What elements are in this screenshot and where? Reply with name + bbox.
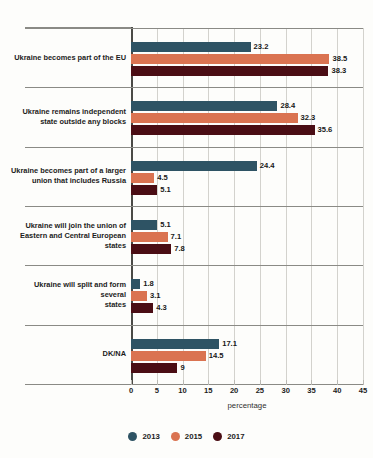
bar-value-label: 7.1 [168, 232, 182, 242]
category-band: 1.83.14.3 [131, 265, 363, 324]
bar-2013[interactable] [131, 101, 277, 111]
category-label: Ukraine will join the union ofEastern an… [8, 206, 126, 265]
x-tick-mark [157, 380, 158, 385]
x-tick-mark [234, 380, 235, 385]
x-tick-mark [363, 380, 364, 385]
x-tick-mark [208, 380, 209, 385]
x-axis-title: percentage [131, 401, 363, 410]
bar-value-label: 14.5 [206, 351, 224, 361]
legend-swatch-icon [128, 432, 137, 441]
legend-swatch-icon [171, 432, 180, 441]
bar-2013[interactable] [131, 279, 140, 289]
bar-chart: Ukraine becomes part of the EUUkraine re… [0, 0, 373, 458]
bar-value-label: 9 [177, 363, 184, 373]
legend-label: 2013 [142, 432, 159, 441]
category-band: 28.432.335.6 [131, 87, 363, 146]
x-tick-mark [337, 380, 338, 385]
x-tick-label: 30 [281, 386, 289, 395]
x-tick-label: 25 [256, 386, 264, 395]
gridline-45 [363, 28, 364, 384]
plot-area: 23.238.538.328.432.335.624.44.55.15.17.1… [131, 28, 363, 384]
x-tick-label: 15 [204, 386, 212, 395]
bar-value-label: 17.1 [219, 339, 237, 349]
bar-2015[interactable] [131, 291, 147, 301]
category-separator [25, 87, 363, 88]
x-tick-label: 40 [333, 386, 341, 395]
x-tick-label: 5 [155, 386, 159, 395]
category-separator [25, 206, 363, 207]
x-axis-ticks: 051015202530354045 [131, 386, 363, 400]
bar-2015[interactable] [131, 113, 298, 123]
category-label: DK/NA [8, 325, 126, 384]
bar-2017[interactable] [131, 303, 153, 313]
chart-legend: 201320152017 [0, 432, 373, 441]
category-label: Ukraine remains independentstate outside… [8, 87, 126, 146]
bar-2015[interactable] [131, 173, 154, 183]
bar-2015[interactable] [131, 54, 329, 64]
bar-value-label: 5.1 [157, 185, 171, 195]
x-tick-mark [260, 380, 261, 385]
x-tick-label: 45 [359, 386, 367, 395]
bar-value-label: 24.4 [257, 161, 275, 171]
bar-2013[interactable] [131, 339, 219, 349]
bar-2017[interactable] [131, 244, 171, 254]
legend-swatch-icon [213, 432, 222, 441]
category-separator [25, 147, 363, 148]
bar-2017[interactable] [131, 66, 328, 76]
legend-item-2013[interactable]: 2013 [128, 432, 159, 441]
x-tick-mark [311, 380, 312, 385]
x-tick-mark [286, 380, 287, 385]
bar-value-label: 38.3 [328, 66, 346, 76]
legend-item-2015[interactable]: 2015 [171, 432, 202, 441]
bar-value-label: 4.3 [153, 303, 167, 313]
bar-2017[interactable] [131, 185, 157, 195]
bar-2013[interactable] [131, 220, 157, 230]
category-label: Ukraine becomes part of the EU [8, 28, 126, 87]
bar-value-label: 3.1 [147, 291, 161, 301]
category-label: Ukraine will split and form severalstate… [8, 265, 126, 324]
x-tick-label: 20 [230, 386, 238, 395]
legend-label: 2015 [185, 432, 202, 441]
bar-value-label: 35.6 [315, 125, 333, 135]
bar-2017[interactable] [131, 363, 177, 373]
bar-value-label: 1.8 [140, 279, 154, 289]
bar-value-label: 23.2 [251, 42, 269, 52]
x-tick-label: 35 [307, 386, 315, 395]
bar-value-label: 28.4 [277, 101, 295, 111]
category-band: 24.44.55.1 [131, 147, 363, 206]
bar-value-label: 32.3 [298, 113, 316, 123]
x-tick-label: 0 [129, 386, 133, 395]
bar-2013[interactable] [131, 161, 257, 171]
category-band: 23.238.538.3 [131, 28, 363, 87]
legend-item-2017[interactable]: 2017 [213, 432, 244, 441]
bar-2017[interactable] [131, 125, 315, 135]
x-tick-mark [131, 380, 132, 385]
category-band: 5.17.17.8 [131, 206, 363, 265]
bar-value-label: 7.8 [171, 244, 185, 254]
bar-2013[interactable] [131, 42, 251, 52]
bar-value-label: 5.1 [157, 220, 171, 230]
category-label: Ukraine becomes part of a largerunion th… [8, 147, 126, 206]
category-band: 17.114.59 [131, 325, 363, 384]
category-separator [25, 28, 363, 29]
category-separator [25, 325, 363, 326]
bar-2015[interactable] [131, 232, 168, 242]
legend-label: 2017 [227, 432, 244, 441]
x-tick-label: 10 [178, 386, 186, 395]
x-tick-mark [183, 380, 184, 385]
category-separator [25, 265, 363, 266]
bar-value-label: 38.5 [329, 54, 347, 64]
bar-value-label: 4.5 [154, 173, 168, 183]
bar-2015[interactable] [131, 351, 206, 361]
